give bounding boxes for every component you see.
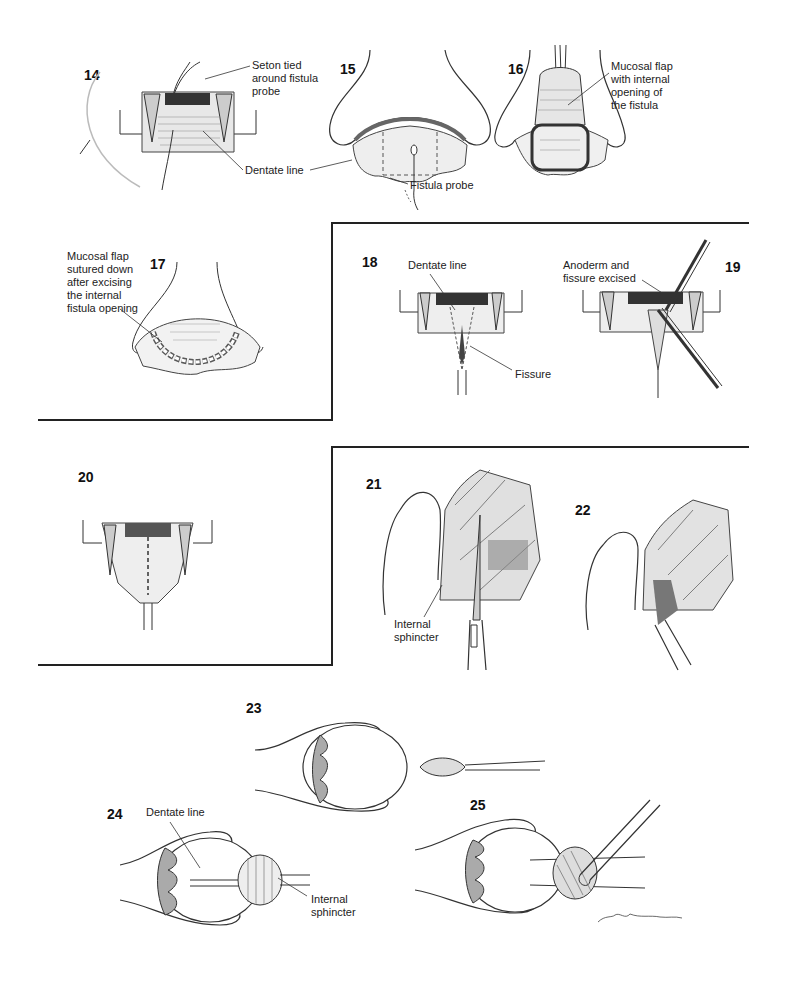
illustration-anoscope-sphincter (120, 820, 310, 930)
illustration-sphincter-division (415, 795, 665, 920)
label-mucosal-flap: Mucosal flap with internal opening of th… (611, 60, 673, 112)
illustration-retractor-exposure (80, 62, 260, 192)
illustration-sphincterotomy-blade (583, 500, 733, 675)
label-seton: Seton tied around fistula probe (252, 59, 318, 98)
illustration-fissure-excision (578, 240, 728, 400)
illustration-fissure (392, 285, 527, 400)
illustration-flap-sutured (125, 262, 270, 380)
label-internal-sphincter: Internal sphincter (311, 893, 356, 919)
frame-line-top-1 (331, 222, 749, 224)
label-fistula-probe: Fistula probe (410, 179, 474, 192)
illustration-mucosal-flap (490, 45, 630, 205)
label-dentate-line: Dentate line (146, 806, 205, 819)
label-fissure: Fissure (515, 368, 551, 381)
frame-line-top-2 (331, 446, 749, 448)
frame-line-bottom-2 (38, 664, 333, 666)
frame-line-bottom-1 (38, 419, 333, 421)
label-internal-sphincter: Internal sphincter (394, 618, 439, 644)
frame-line-vertical-1 (331, 222, 333, 420)
label-dentate-line: Dentate line (245, 164, 304, 177)
figure-number: 23 (246, 700, 262, 716)
figure-number: 20 (78, 469, 94, 485)
illustration-closure (80, 495, 215, 630)
label-dentate-line: Dentate line (408, 259, 467, 272)
figure-number: 18 (362, 254, 378, 270)
frame-line-vertical-2 (331, 446, 333, 665)
